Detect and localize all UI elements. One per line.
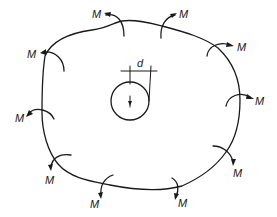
moment-left: M: [15, 109, 54, 124]
moment-diagram: d M M M M M M M: [0, 0, 277, 217]
moment-upper-right: M: [207, 41, 247, 56]
arrow-icon: [246, 94, 254, 99]
arrow-icon: [170, 13, 177, 18]
svg-text:M: M: [90, 198, 100, 210]
moment-bottom-right: M: [172, 178, 188, 209]
svg-text:M: M: [45, 174, 55, 186]
arrow-icon: [226, 42, 234, 47]
center-arrow-icon: [128, 101, 132, 106]
arrow-icon: [231, 159, 236, 166]
moment-bottom-mid: M: [90, 175, 113, 210]
moment-top-right: M: [161, 8, 189, 38]
svg-text:M: M: [27, 48, 37, 60]
arrow-icon: [40, 49, 46, 55]
svg-text:M: M: [15, 112, 25, 124]
dimension-label: d: [137, 57, 144, 69]
outer-boundary: [42, 20, 240, 189]
arrow-icon: [48, 164, 53, 171]
moment-right: M: [226, 94, 265, 107]
svg-text:M: M: [237, 41, 247, 53]
moment-upper-left: M: [27, 48, 64, 71]
svg-text:M: M: [255, 95, 265, 107]
svg-text:M: M: [179, 8, 189, 20]
moment-lower-left: M: [45, 155, 71, 186]
svg-text:M: M: [233, 167, 243, 179]
svg-text:M: M: [178, 197, 188, 209]
svg-text:M: M: [92, 8, 102, 20]
arrow-icon: [104, 12, 111, 17]
